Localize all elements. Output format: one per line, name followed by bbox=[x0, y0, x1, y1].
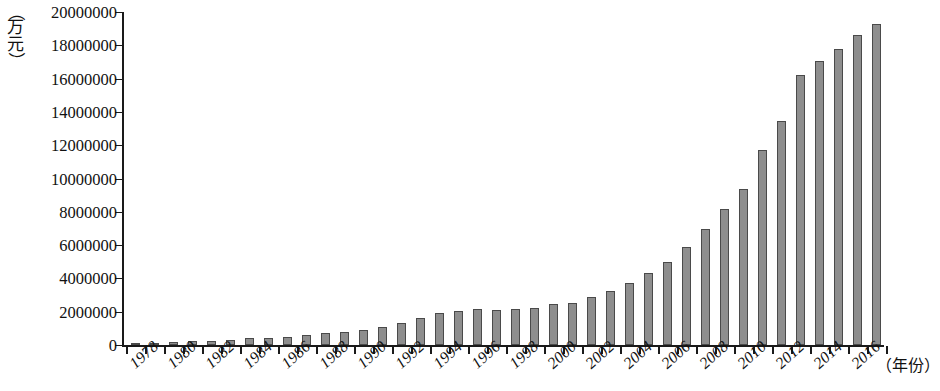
y-tick-group: 0 bbox=[122, 345, 123, 346]
bar bbox=[283, 337, 293, 345]
y-tick-group: 6000000 bbox=[122, 245, 123, 246]
x-tick-mark bbox=[392, 346, 394, 354]
bar bbox=[207, 341, 217, 345]
bar bbox=[587, 297, 597, 345]
x-tick-mark bbox=[810, 346, 812, 354]
y-tick-label: 20000000 bbox=[51, 3, 117, 23]
bar bbox=[359, 330, 369, 345]
y-tick-group: 18000000 bbox=[122, 45, 123, 46]
y-tick-label: 10000000 bbox=[51, 170, 117, 190]
x-tick-mark bbox=[506, 346, 508, 354]
y-tick-label: 18000000 bbox=[51, 36, 117, 56]
x-tick-mark bbox=[240, 346, 242, 354]
y-tick-group: 2000000 bbox=[122, 312, 123, 313]
plot-area: 0200000040000006000000800000010000000120… bbox=[122, 12, 882, 345]
y-tick-label: 14000000 bbox=[51, 103, 117, 123]
bar bbox=[701, 229, 711, 345]
y-tick-group: 12000000 bbox=[122, 145, 123, 146]
bar bbox=[872, 24, 882, 345]
bar bbox=[796, 75, 806, 345]
x-tick-mark bbox=[202, 346, 204, 354]
y-tick-label: 4000000 bbox=[59, 269, 117, 289]
y-tick-group: 16000000 bbox=[122, 79, 123, 80]
y-tick-group: 20000000 bbox=[122, 12, 123, 13]
bar bbox=[511, 309, 521, 345]
y-tick-group: 10000000 bbox=[122, 179, 123, 180]
y-tick-group: 14000000 bbox=[122, 112, 123, 113]
x-tick-mark bbox=[354, 346, 356, 354]
y-axis-unit-label: （万元） bbox=[2, 6, 28, 67]
y-tick-label: 8000000 bbox=[59, 203, 117, 223]
bar bbox=[777, 121, 787, 345]
bar bbox=[169, 342, 179, 345]
bar bbox=[473, 309, 483, 345]
x-tick-mark bbox=[544, 346, 546, 354]
x-tick-mark bbox=[582, 346, 584, 354]
x-axis-unit-label: （年份） bbox=[876, 352, 940, 376]
x-tick-mark bbox=[468, 346, 470, 354]
x-tick-mark bbox=[316, 346, 318, 354]
x-tick-mark bbox=[126, 346, 128, 354]
y-tick-group: 4000000 bbox=[122, 278, 123, 279]
bar bbox=[758, 150, 768, 345]
bar bbox=[321, 333, 331, 345]
bar bbox=[625, 283, 635, 345]
y-tick-label: 6000000 bbox=[59, 236, 117, 256]
x-tick-mark bbox=[164, 346, 166, 354]
x-tick-mark bbox=[848, 346, 850, 354]
bar bbox=[720, 209, 730, 345]
bar bbox=[834, 49, 844, 345]
bar bbox=[131, 343, 141, 345]
bar bbox=[549, 304, 559, 345]
bar bbox=[644, 273, 654, 345]
bar bbox=[815, 61, 825, 345]
bar bbox=[606, 291, 616, 345]
y-tick-label: 12000000 bbox=[51, 136, 117, 156]
bar bbox=[397, 323, 407, 345]
chart-page: （万元） 02000000400000060000008000000100000… bbox=[0, 0, 940, 391]
bar bbox=[853, 35, 863, 345]
bar bbox=[435, 313, 445, 345]
bar bbox=[682, 247, 692, 345]
x-axis-line bbox=[122, 345, 884, 347]
y-unit-char: ） bbox=[9, 47, 22, 73]
bar bbox=[245, 338, 255, 345]
y-tick-group: 8000000 bbox=[122, 212, 123, 213]
x-tick-mark bbox=[620, 346, 622, 354]
y-tick-label: 2000000 bbox=[59, 303, 117, 323]
y-tick-label: 0 bbox=[109, 336, 117, 356]
x-tick-mark bbox=[734, 346, 736, 354]
y-unit-char: （ bbox=[9, 0, 22, 26]
x-tick-mark bbox=[658, 346, 660, 354]
y-tick-label: 16000000 bbox=[51, 70, 117, 90]
x-tick-mark bbox=[696, 346, 698, 354]
x-tick-mark bbox=[772, 346, 774, 354]
bar bbox=[663, 262, 673, 345]
x-tick-mark bbox=[278, 346, 280, 354]
bar bbox=[739, 189, 749, 346]
x-tick-mark bbox=[430, 346, 432, 354]
